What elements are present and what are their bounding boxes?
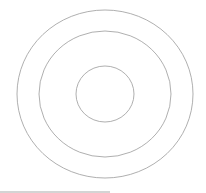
bottom-divider [0,191,110,193]
inner-circle [76,66,134,122]
middle-circle [39,31,171,157]
concentric-circles-diagram [0,0,206,193]
outer-circle [17,10,193,178]
